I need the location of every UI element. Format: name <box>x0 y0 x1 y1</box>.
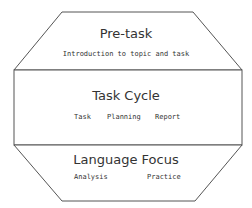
language-focus-item-practice: Practice <box>147 173 181 181</box>
pre-task-title: Pre-task <box>0 26 252 41</box>
task-cycle-shape <box>14 70 242 145</box>
pre-task-subtitle: Introduction to topic and task <box>0 50 252 58</box>
task-cycle-title: Task Cycle <box>0 88 252 103</box>
task-cycle-item-task: Task <box>74 113 91 121</box>
pre-task-shape <box>14 12 242 70</box>
task-cycle-item-report: Report <box>155 113 180 121</box>
language-focus-item-analysis: Analysis <box>74 173 108 181</box>
task-cycle-item-planning: Planning <box>107 113 141 121</box>
language-focus-title: Language Focus <box>0 152 252 167</box>
